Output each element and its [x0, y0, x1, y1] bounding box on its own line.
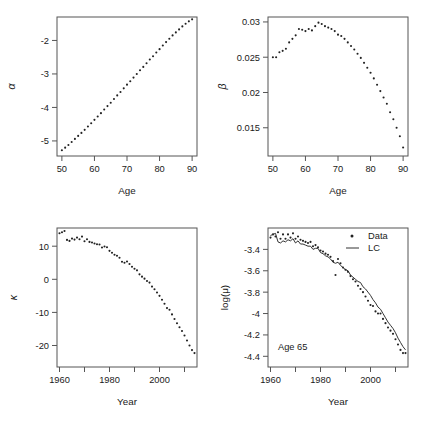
y-tick-label: -4.2 [244, 330, 260, 340]
data-point [156, 291, 158, 293]
data-point [146, 280, 148, 282]
data-point [356, 53, 358, 55]
data-point [357, 285, 359, 287]
data-point [292, 232, 294, 234]
data-point [402, 146, 404, 148]
x-tick-label: 2000 [360, 375, 381, 385]
panel-kappa: 196019802000-20-10010Yearκ [0, 211, 211, 422]
data-point [96, 243, 98, 245]
data-point [161, 299, 163, 301]
data-point [142, 66, 144, 68]
data-point [382, 318, 384, 320]
data-point [123, 262, 125, 264]
data-point [374, 310, 376, 312]
data-point [68, 240, 70, 242]
data-point [129, 80, 131, 82]
data-point [294, 238, 296, 240]
y-tick-label: -3.4 [244, 245, 260, 255]
data-point [67, 144, 69, 146]
data-point [168, 309, 170, 311]
data-point [61, 231, 63, 233]
data-point [165, 41, 167, 43]
data-point [387, 326, 389, 328]
data-point [93, 243, 95, 245]
data-point [384, 322, 386, 324]
data-point [304, 241, 306, 243]
data-point [168, 38, 170, 40]
data-point [186, 339, 188, 341]
data-point [151, 286, 153, 288]
data-point [143, 278, 145, 280]
data-point [193, 352, 195, 354]
data-point [307, 242, 309, 244]
data-point [369, 304, 371, 306]
data-point [340, 35, 342, 37]
data-point [175, 31, 177, 33]
data-point [317, 22, 319, 24]
data-point [80, 132, 82, 134]
data-point [149, 58, 151, 60]
data-point [181, 25, 183, 27]
data-point [282, 233, 284, 235]
data-point [159, 48, 161, 50]
data-point [108, 250, 110, 252]
data-point [100, 112, 102, 114]
data-point [337, 258, 339, 260]
x-tick-label: 90 [398, 164, 408, 174]
data-point [106, 246, 108, 248]
plot-box [57, 228, 197, 367]
x-tick-label: 80 [154, 164, 164, 174]
data-point [98, 244, 100, 246]
data-point [288, 41, 290, 43]
data-point [141, 276, 143, 278]
y-tick-label: -4 [41, 103, 49, 113]
data-point [172, 34, 174, 36]
data-point [289, 237, 291, 239]
data-point [343, 38, 345, 40]
data-point [397, 344, 399, 346]
data-point [113, 254, 115, 256]
x-axis-title: Age [118, 185, 136, 196]
y-tick-label: 0.03 [242, 17, 260, 27]
data-point [370, 72, 372, 74]
x-tick-label: 2000 [149, 375, 170, 385]
data-point [121, 261, 123, 263]
data-point [278, 51, 280, 53]
data-point [163, 303, 165, 305]
y-tick-label: -4 [252, 309, 260, 319]
figure-canvas: 5060708090-2-3-4-5Ageα 50607080900.0150.… [0, 0, 422, 422]
x-axis-title: Age [329, 185, 347, 196]
x-tick-label: 50 [57, 164, 67, 174]
y-axis-title: α [5, 83, 17, 90]
data-point [366, 67, 368, 69]
data-point [181, 330, 183, 332]
data-point [377, 312, 379, 314]
data-point [404, 352, 406, 354]
data-point [113, 98, 115, 100]
data-point [277, 231, 279, 233]
data-point [66, 239, 68, 241]
data-point [327, 27, 329, 29]
data-point [78, 238, 80, 240]
data-point [173, 318, 175, 320]
y-tick-label: -3 [41, 69, 49, 79]
data-point [396, 127, 398, 129]
x-tick-label: 1960 [49, 375, 70, 385]
data-point [402, 352, 404, 354]
data-point [71, 141, 73, 143]
data-point [73, 239, 75, 241]
data-point [287, 233, 289, 235]
data-point [379, 312, 381, 314]
data-point [162, 44, 164, 46]
data-point [145, 62, 147, 64]
data-point [350, 45, 352, 47]
data-point [185, 23, 187, 25]
data-point [119, 91, 121, 93]
data-point [312, 245, 314, 247]
y-axis-title: κ [7, 294, 19, 300]
data-point [311, 29, 313, 31]
data-point [123, 87, 125, 89]
data-point [166, 307, 168, 309]
data-point [269, 237, 271, 239]
data-point [376, 84, 378, 86]
